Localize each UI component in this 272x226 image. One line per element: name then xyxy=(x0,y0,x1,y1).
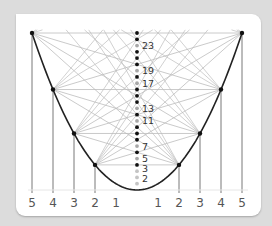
sieve-line xyxy=(95,30,170,165)
composite-dot xyxy=(135,75,139,79)
prime-label: 7 xyxy=(142,141,148,152)
x-axis-label: 4 xyxy=(217,196,225,210)
x-axis-label: 1 xyxy=(112,196,120,210)
y-axis-number-dots xyxy=(135,31,139,186)
prime-dot xyxy=(135,157,139,161)
x-axis-label: 3 xyxy=(196,196,204,210)
x-axis-label: 5 xyxy=(28,196,36,210)
sieve-line xyxy=(32,33,179,165)
x-axis-label: 1 xyxy=(154,196,162,210)
composite-dot xyxy=(135,94,139,98)
parabola-node xyxy=(240,31,244,35)
composite-dot xyxy=(135,132,139,136)
sieve-line xyxy=(89,30,179,165)
sieve-line xyxy=(95,30,185,165)
parabola-node xyxy=(30,31,34,35)
composite-dot xyxy=(135,37,139,41)
prime-label: 17 xyxy=(142,78,154,89)
prime-dot xyxy=(135,144,139,148)
composite-dot xyxy=(135,163,139,167)
prime-dot xyxy=(135,81,139,85)
composite-dot xyxy=(135,88,139,92)
composite-dot xyxy=(135,31,139,35)
parabola-node xyxy=(198,131,202,135)
prime-dot xyxy=(135,44,139,48)
prime-dot xyxy=(135,176,139,180)
sieve-line xyxy=(66,30,179,165)
prime-dot xyxy=(135,106,139,110)
composite-dot xyxy=(135,50,139,54)
prime-dot xyxy=(135,69,139,73)
sieve-line xyxy=(53,30,103,90)
composite-dot xyxy=(135,150,139,154)
prime-dot xyxy=(135,119,139,123)
composite-dot xyxy=(135,138,139,142)
composite-dot xyxy=(135,100,139,104)
sieve-line xyxy=(74,133,179,164)
composite-dot xyxy=(135,56,139,60)
composite-dot xyxy=(135,113,139,117)
composite-dot xyxy=(135,63,139,67)
sieve-line xyxy=(171,30,221,90)
prime-label: 23 xyxy=(142,40,154,51)
parabola-node xyxy=(219,87,223,91)
x-axis-label: 4 xyxy=(49,196,57,210)
prime-label: 5 xyxy=(142,153,148,164)
x-axis-label: 2 xyxy=(175,196,183,210)
x-axis-label: 5 xyxy=(238,196,246,210)
parabola-node xyxy=(93,163,97,167)
prime-label: 19 xyxy=(142,65,154,76)
prime-label: 13 xyxy=(142,103,154,114)
x-axis-labels: 5432112345 xyxy=(28,196,246,210)
x-axis-label: 2 xyxy=(91,196,99,210)
parabola-node xyxy=(177,163,181,167)
parabola-node xyxy=(72,131,76,135)
parabola-node xyxy=(51,87,55,91)
composite-dot xyxy=(135,125,139,129)
x-axis-label: 3 xyxy=(70,196,78,210)
prime-label: 11 xyxy=(142,115,154,126)
sieve-line xyxy=(95,33,242,165)
parabola-sieve-diagram: 23571113171923 5432112345 xyxy=(0,0,272,226)
prime-label: 3 xyxy=(142,163,148,174)
prime-label: 2 xyxy=(142,173,148,184)
prime-dot xyxy=(135,169,139,173)
prime-dot xyxy=(135,182,139,186)
